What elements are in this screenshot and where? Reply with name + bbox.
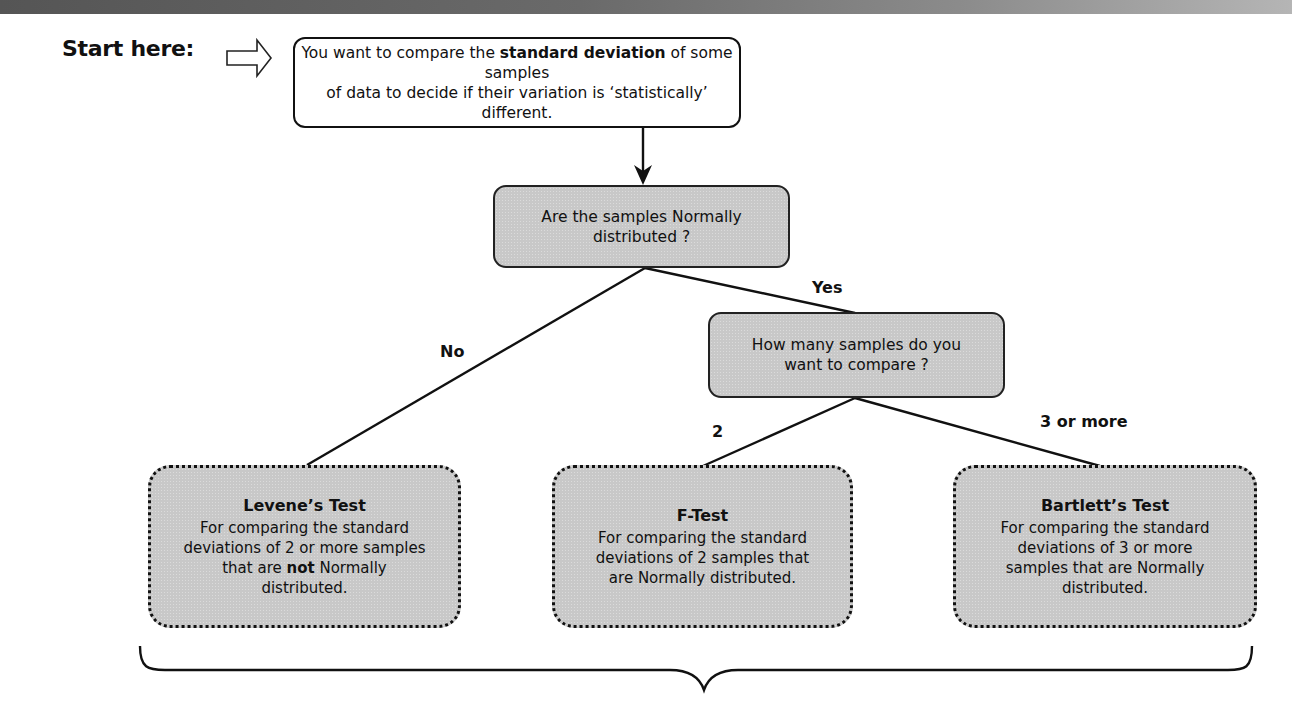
- bartlett-title: Bartlett’s Test: [1041, 495, 1169, 517]
- start-here-label: Start here:: [62, 36, 194, 61]
- down-arrow-connector: [634, 128, 652, 185]
- edge-two: [703, 398, 855, 466]
- levene-title: Levene’s Test: [243, 495, 366, 517]
- f-test-title: F-Test: [677, 505, 729, 527]
- edge-label-three-or-more: 3 or more: [1040, 412, 1128, 431]
- bold-not: not: [287, 559, 315, 577]
- bold-standard-deviation: standard deviation: [500, 44, 666, 62]
- start-box-line1: You want to compare the standard deviati…: [295, 43, 739, 83]
- edge-label-no: No: [440, 342, 464, 361]
- edge-label-yes: Yes: [812, 278, 843, 297]
- edge-three-or-more: [855, 398, 1100, 466]
- outline-right-arrow-icon: [227, 40, 271, 76]
- question-count-line1: How many samples do you: [752, 335, 961, 355]
- bartlett-test-box: Bartlett’s Test For comparing the standa…: [953, 465, 1257, 628]
- edge-no: [307, 268, 645, 465]
- edge-label-two: 2: [712, 422, 723, 441]
- question-normal-line1: Are the samples Normally: [541, 207, 741, 227]
- levene-test-box: Levene’s Test For comparing the standard…: [148, 465, 461, 628]
- question-count-line2: want to compare ?: [784, 355, 929, 375]
- question-normal-box: Are the samples Normally distributed ?: [493, 185, 790, 268]
- f-test-box: F-Test For comparing the standard deviat…: [552, 465, 853, 628]
- question-normal-line2: distributed ?: [593, 227, 690, 247]
- start-box: You want to compare the standard deviati…: [293, 37, 741, 128]
- curly-brace-icon: [140, 646, 1252, 690]
- start-box-line2: of data to decide if their variation is …: [295, 83, 739, 123]
- question-count-box: How many samples do you want to compare …: [708, 312, 1005, 398]
